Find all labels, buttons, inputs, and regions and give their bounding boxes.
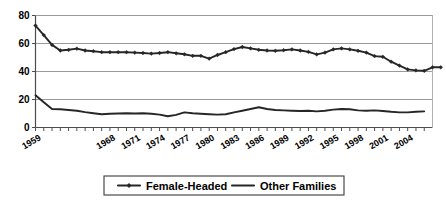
data-point-marker — [290, 47, 294, 51]
data-point-marker — [91, 49, 95, 53]
data-point-marker — [265, 49, 269, 53]
x-axis-tick-label: 1977 — [169, 133, 191, 152]
x-axis-labels: 1959196819711974197719801983198619891992… — [20, 133, 415, 152]
data-point-marker — [298, 49, 302, 53]
x-axis-tick-label: 1959 — [20, 133, 42, 152]
chart-legend[interactable]: Female-HeadedOther Families — [104, 176, 344, 195]
data-point-marker — [158, 51, 162, 55]
x-axis-tick-label: 2004 — [392, 133, 414, 152]
x-axis-tick-label: 1998 — [343, 133, 365, 152]
x-axis-tick-label: 1995 — [318, 133, 340, 152]
data-point-marker — [100, 50, 104, 54]
y-axis-tick-label: 0 — [24, 122, 30, 133]
data-point-marker — [75, 47, 79, 51]
data-point-marker — [166, 50, 170, 54]
y-axis-tick-label: 40 — [18, 66, 30, 77]
x-axis-tick-label: 1974 — [144, 133, 166, 152]
y-axis-tick-label: 80 — [18, 10, 30, 21]
data-point-marker — [439, 65, 443, 69]
data-point-marker — [108, 50, 112, 54]
data-point-marker — [133, 51, 137, 55]
data-point-marker — [249, 47, 253, 51]
series-line — [36, 95, 425, 116]
data-point-marker — [174, 51, 178, 55]
x-axis-tick-label: 2001 — [368, 133, 390, 152]
x-axis-tick-label: 1986 — [243, 133, 265, 152]
x-axis-tick-label: 1968 — [95, 133, 117, 152]
data-point-marker — [282, 48, 286, 52]
chart-canvas: 020406080 195919681971197419771980198319… — [0, 0, 446, 202]
y-axis-tick-label: 20 — [18, 94, 30, 105]
data-point-marker — [191, 54, 195, 58]
x-axis-tick-label: 1992 — [293, 133, 315, 152]
y-axis-labels: 020406080 — [18, 10, 35, 133]
data-point-marker — [240, 45, 244, 49]
series-line — [36, 26, 441, 71]
data-point-marker — [83, 49, 87, 53]
data-point-marker — [149, 52, 153, 56]
data-point-marker — [257, 48, 261, 52]
x-axis-tick-label: 1971 — [119, 133, 141, 152]
legend-label: Other Families — [260, 180, 336, 192]
legend-label: Female-Headed — [146, 180, 227, 192]
data-point-marker — [356, 49, 360, 53]
x-axis-tick-label: 1989 — [268, 133, 290, 152]
data-point-marker — [182, 52, 186, 56]
data-point-marker — [348, 47, 352, 51]
data-point-marker — [67, 48, 71, 52]
data-point-marker — [273, 49, 277, 53]
y-axis-tick-label: 60 — [18, 38, 30, 49]
data-point-marker — [125, 50, 129, 54]
x-axis-tick-label: 1980 — [194, 133, 216, 152]
series-other-families — [36, 95, 425, 116]
data-point-marker — [340, 47, 344, 51]
series-female-headed — [34, 24, 443, 73]
data-point-marker — [141, 51, 145, 55]
line-chart: 020406080 195919681971197419771980198319… — [0, 0, 446, 202]
data-point-marker — [116, 50, 120, 54]
data-series-layer — [34, 24, 443, 117]
x-axis-tick-label: 1983 — [219, 133, 241, 152]
